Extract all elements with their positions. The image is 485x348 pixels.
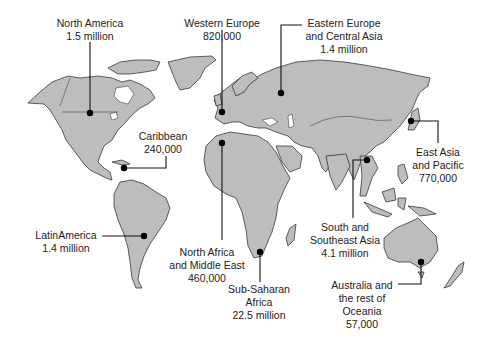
- region-value: 770,000: [412, 172, 463, 185]
- label-north-africa-middle-east: North Africa and Middle East 460,000: [169, 246, 244, 285]
- new-zealand-landmass: [444, 262, 464, 288]
- australia-landmass: [384, 218, 438, 268]
- caribbean-islands: [112, 160, 130, 165]
- marker-sub-saharan: [257, 249, 263, 255]
- marker-east-asia: [408, 118, 414, 124]
- marker-australia: [418, 259, 424, 265]
- region-name-line: the rest of: [331, 292, 392, 305]
- india-landmass: [326, 154, 350, 190]
- region-value: 57,000: [331, 318, 392, 331]
- region-name-line: Sub-Saharan: [228, 283, 290, 296]
- leader-caribbean: [124, 156, 166, 168]
- label-north-america: North America 1.5 million: [57, 17, 124, 43]
- region-name-line: and Central Asia: [305, 30, 382, 43]
- label-caribbean: Caribbean 240,000: [139, 130, 187, 156]
- marker-caribbean: [121, 165, 127, 171]
- region-name-line: North Africa: [169, 246, 244, 259]
- label-latin-america: LatinAmerica 1.4 million: [35, 229, 96, 255]
- region-name-line: and Middle East: [169, 259, 244, 272]
- africa-landmass: [204, 132, 290, 258]
- marker-north-america: [87, 110, 93, 116]
- label-east-asia-pacific: East Asia and Pacific 770,000: [412, 146, 463, 185]
- region-value: 22.5 million: [228, 309, 290, 322]
- label-eastern-europe-central-asia: Eastern Europe and Central Asia 1.4 mill…: [305, 17, 382, 56]
- marker-latin-america: [141, 233, 147, 239]
- region-value: 1.4 million: [305, 43, 382, 56]
- region-name-line: Oceania: [331, 305, 392, 318]
- marker-north-africa: [219, 140, 225, 146]
- region-name-line: Eastern Europe: [305, 17, 382, 30]
- region-value: 240,000: [139, 143, 187, 156]
- madagascar-landmass: [286, 224, 296, 246]
- philippines-islands: [398, 164, 408, 184]
- region-name-line: and Pacific: [412, 159, 463, 172]
- marker-south-asia: [364, 157, 370, 163]
- region-name-line: East Asia: [412, 146, 463, 159]
- region-value: 1.4 million: [35, 242, 96, 255]
- region-name: North America: [57, 17, 124, 30]
- region-name: Caribbean: [139, 130, 187, 143]
- region-name-line: Southeast Asia: [310, 234, 380, 247]
- label-sub-saharan-africa: Sub-Saharan Africa 22.5 million: [228, 283, 290, 322]
- region-name: LatinAmerica: [35, 229, 96, 242]
- arctic-islands-landmass: [108, 60, 160, 74]
- region-value: 820,000: [184, 30, 260, 43]
- region-name-line: Australia and: [331, 279, 392, 292]
- region-name-line: Africa: [228, 296, 290, 309]
- region-name: Western Europe: [184, 17, 260, 30]
- north-america-landmass: [28, 76, 155, 180]
- marker-western-europe: [219, 109, 225, 115]
- region-name-line: South and: [310, 221, 380, 234]
- region-value: 1.5 million: [57, 30, 124, 43]
- greenland-landmass: [168, 56, 216, 90]
- label-south-southeast-asia: South and Southeast Asia 4.1 million: [310, 221, 380, 260]
- label-western-europe: Western Europe 820,000: [184, 17, 260, 43]
- indonesia-islands: [364, 188, 436, 217]
- label-australia-oceania: Australia and the rest of Oceania 57,000: [331, 279, 392, 331]
- marker-eastern-europe: [278, 90, 284, 96]
- region-value: 4.1 million: [310, 247, 380, 260]
